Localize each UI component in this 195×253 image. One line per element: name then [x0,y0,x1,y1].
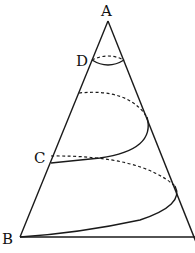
label-d: D [76,52,88,70]
curve-front-top [92,60,124,65]
cone-diagram: A B C D [0,0,195,253]
label-a: A [100,2,112,20]
curve-front-bottom [20,186,177,237]
curve-back-top [92,56,124,60]
curve-back-middle-upper [79,92,147,117]
cone-left-edge [20,21,108,237]
label-c: C [34,149,45,167]
cone-right-edge [108,21,195,242]
label-b: B [2,230,13,248]
